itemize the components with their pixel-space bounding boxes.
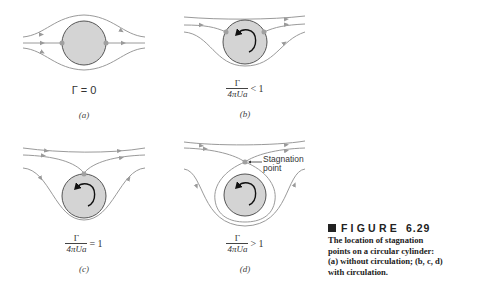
streamline	[184, 16, 305, 19]
panel-b-condition: Γ4πUa< 1	[215, 78, 275, 99]
panel-c-diagram	[23, 148, 145, 220]
fraction-denominator: 4πUa	[226, 88, 248, 99]
square-bullet-icon	[328, 224, 336, 232]
panel-b-sublabel: (b)	[225, 107, 265, 119]
relation: > 1	[250, 238, 263, 249]
stagnation-point-icon	[243, 160, 248, 165]
cylinder-icon	[62, 174, 106, 218]
fraction-denominator: 4πUa	[226, 243, 248, 254]
stagnation-point-annotation: Stagnation point	[263, 155, 304, 173]
stagnation-point-icon	[262, 30, 267, 35]
panel-d-sublabel: (d)	[225, 262, 265, 274]
stagnation-point-icon	[224, 30, 229, 35]
panel-a-condition: Γ = 0	[64, 84, 104, 96]
panel-a-sublabel: (a)	[64, 108, 104, 120]
panel-c-condition: Γ4πUa= 1	[54, 233, 114, 254]
relation: < 1	[250, 83, 263, 94]
figure-title: FIGURE 6.29	[328, 222, 488, 234]
fraction-denominator: 4πUa	[65, 243, 87, 254]
stagnation-point-icon	[60, 41, 65, 46]
streamline	[23, 148, 145, 152]
figure-caption: FIGURE 6.29 The location of stagnation p…	[328, 222, 488, 277]
cylinder-icon	[223, 20, 267, 64]
fraction-numerator: Γ	[73, 233, 80, 243]
caption-text: The location of stagnation points on a c…	[328, 235, 488, 277]
stagnation-point-icon	[82, 172, 87, 177]
panel-d-condition: Γ4πUa> 1	[215, 233, 275, 254]
panel-a-diagram	[23, 15, 145, 70]
panel-b-diagram	[184, 16, 305, 66]
stagnation-point-icon	[104, 41, 109, 46]
fraction-numerator: Γ	[234, 78, 241, 88]
cylinder-icon	[224, 174, 266, 216]
panel-c-sublabel: (c)	[64, 262, 104, 274]
cylinder-icon	[62, 21, 106, 65]
fraction-numerator: Γ	[234, 233, 241, 243]
streamline	[23, 155, 145, 173]
relation: = 1	[89, 238, 102, 249]
